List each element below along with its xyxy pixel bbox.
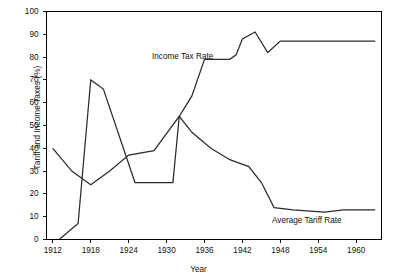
y-tick-label: 70 — [9, 75, 39, 84]
x-tick-label: 1960 — [336, 246, 376, 255]
series-label-average-tariff: Average Tariff Rate — [272, 216, 342, 225]
plot-border — [47, 12, 382, 240]
plot-frame-group — [47, 12, 382, 240]
chart-figure: Tariff and Income Taxes (%) Year 1009080… — [0, 0, 397, 280]
series-label-income-tax: Income Tax Rate — [152, 52, 213, 61]
x-axis-title: Year — [0, 265, 397, 274]
y-tick-label: 10 — [9, 212, 39, 221]
x-tick-label: 1936 — [185, 246, 225, 255]
y-axis-title: Tariff and Income Taxes (%) — [33, 18, 42, 218]
x-tick-label: 1930 — [147, 246, 187, 255]
y-tick-label: 80 — [9, 53, 39, 62]
y-tick-label: 50 — [9, 121, 39, 130]
x-tick-label: 1948 — [260, 246, 300, 255]
series-line-income-tax-rate — [59, 32, 375, 239]
y-tick-label: 90 — [9, 30, 39, 39]
plot-area — [0, 0, 397, 280]
y-tick-label: 100 — [9, 7, 39, 16]
data-series-group — [53, 32, 375, 239]
y-tick-label: 20 — [9, 189, 39, 198]
y-tick-label: 30 — [9, 167, 39, 176]
x-tick-label: 1942 — [222, 246, 262, 255]
x-tick-label: 1918 — [71, 246, 111, 255]
series-line-average-tariff-rate — [53, 116, 375, 212]
y-tick-label: 0 — [9, 235, 39, 244]
y-tick-label: 60 — [9, 98, 39, 107]
x-tick-label: 1912 — [33, 246, 73, 255]
y-tick-label: 40 — [9, 144, 39, 153]
x-tick-label: 1924 — [109, 246, 149, 255]
x-tick-label: 1954 — [298, 246, 338, 255]
tick-marks-group — [43, 12, 356, 244]
